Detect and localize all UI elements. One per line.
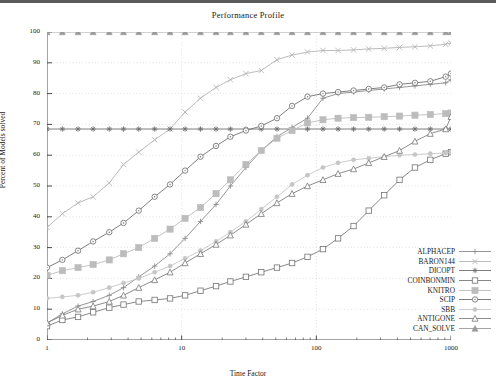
x-tick-label: 1000 (436, 344, 466, 352)
legend-symbol-star-icon (458, 266, 492, 275)
legend-item-label: KNITRO (427, 286, 455, 295)
legend-item[interactable]: SBB (352, 305, 492, 315)
page-title: Performance Profile (0, 10, 496, 20)
legend-item-label: DICOPT (429, 266, 455, 275)
y-axis-label: Percent of Models solved (0, 90, 7, 210)
legend-item-label: BARON144 (419, 257, 456, 266)
legend-symbol-square-open-icon (458, 276, 492, 285)
legend-item-label: CAN_SOLVE (413, 324, 455, 333)
legend-item[interactable]: CAN_SOLVE (352, 324, 492, 334)
legend-item[interactable]: ANTIGONE (352, 314, 492, 324)
legend-symbol-plus-icon (458, 247, 492, 256)
y-tick-label: 40 (14, 212, 40, 220)
legend-symbol-x-icon (458, 257, 492, 266)
legend-symbol-triangle-open-icon (458, 314, 492, 323)
y-tick-label: 60 (14, 150, 40, 158)
legend-item-label: COINBONMIN (408, 276, 455, 285)
y-tick-label: 20 (14, 273, 40, 281)
legend-item[interactable]: ALPHACEP (352, 247, 492, 257)
chart-legend: ALPHACEPBARON144DICOPTCOINBONMINKNITROSC… (352, 247, 492, 333)
page-top-rule (0, 0, 496, 3)
y-tick-label: 30 (14, 243, 40, 251)
legend-symbol-square-filled-icon (458, 286, 492, 295)
y-tick-label: 70 (14, 119, 40, 127)
x-tick-label: 1 (32, 344, 62, 352)
legend-item[interactable]: DICOPT (352, 266, 492, 276)
legend-item[interactable]: SCIP (352, 295, 492, 305)
legend-symbol-circle-open-icon (458, 295, 492, 304)
y-tick-label: 10 (14, 304, 40, 312)
legend-symbol-triangle-filled-icon (458, 324, 492, 333)
legend-item-label: SCIP (440, 295, 455, 304)
legend-symbol-circle-small-icon (458, 305, 492, 314)
series-can-solve (47, 32, 451, 35)
x-axis-label: Time Factor (0, 369, 496, 378)
figure-root: Performance Profile Percent of Models so… (0, 0, 496, 384)
y-tick-label: 100 (14, 27, 40, 35)
y-tick-label: 0 (14, 335, 40, 343)
legend-item[interactable]: COINBONMIN (352, 276, 492, 286)
legend-item[interactable]: KNITRO (352, 285, 492, 295)
series-baron144 (47, 40, 451, 230)
legend-item-label: SBB (441, 305, 455, 314)
legend-item-label: ALPHACEP (417, 247, 455, 256)
x-tick-label: 100 (301, 344, 331, 352)
y-tick-label: 80 (14, 89, 40, 97)
series-scip (47, 71, 451, 270)
legend-item[interactable]: BARON144 (352, 257, 492, 267)
x-tick-label: 10 (167, 344, 197, 352)
legend-item-label: ANTIGONE (417, 314, 455, 323)
y-tick-label: 50 (14, 181, 40, 189)
y-tick-label: 90 (14, 58, 40, 66)
